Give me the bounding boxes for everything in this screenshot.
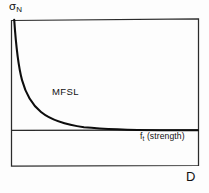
mfsl-curve — [14, 20, 198, 131]
plot-canvas — [0, 0, 209, 193]
frame-box — [12, 19, 199, 166]
asymptote-label-text: (strength) — [144, 131, 184, 141]
y-axis-label-subscript: N — [16, 5, 22, 14]
asymptote-label: ft (strength) — [140, 132, 185, 142]
mfsl-curve-label: MFSL — [52, 87, 79, 97]
y-axis-label: σN — [9, 1, 22, 14]
x-axis-label: D — [186, 170, 195, 183]
figure-container: σN MFSL ft (strength) D — [0, 0, 209, 193]
